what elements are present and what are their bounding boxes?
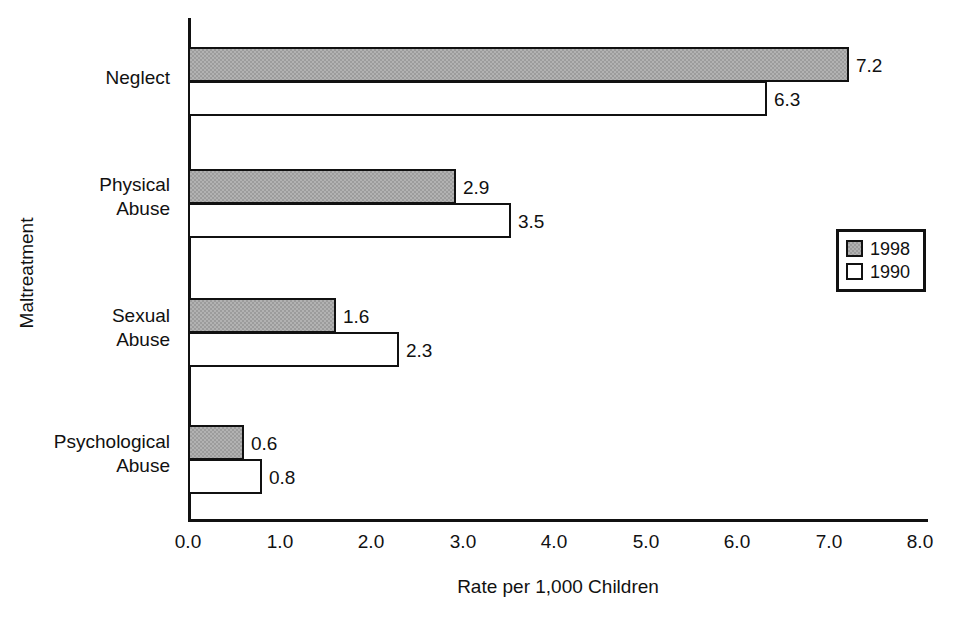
y-tick-label-psychological-abuse: Psychological Abuse (0, 430, 170, 478)
bar-neglect-1990 (188, 81, 767, 116)
chart-screenshot: Maltreatment Neglect Physical Abuse Sexu… (0, 0, 962, 628)
x-axis-title: Rate per 1,000 Children (188, 576, 928, 598)
plot-area: Maltreatment Neglect Physical Abuse Sexu… (0, 0, 962, 628)
legend-swatch-1990-icon (846, 263, 863, 280)
bar-psychological-abuse-1998 (188, 425, 244, 460)
bar-value-psychological-abuse-1990: 0.8 (269, 468, 295, 487)
legend-item-1998: 1998 (846, 237, 917, 260)
x-tick-label-1: 1.0 (245, 531, 315, 553)
x-axis-line (188, 519, 928, 522)
legend-label-1998: 1998 (870, 240, 910, 258)
legend-label-1990: 1990 (870, 263, 910, 281)
legend-swatch-1998-icon (846, 240, 863, 257)
bar-sexual-abuse-1998 (188, 298, 336, 333)
x-tick-label-2: 2.0 (336, 531, 406, 553)
bar-psychological-abuse-1990 (188, 459, 262, 494)
bar-value-physical-abuse-1990: 3.5 (518, 212, 544, 231)
bar-value-neglect-1990: 6.3 (774, 90, 800, 109)
x-tick-label-4: 4.0 (519, 531, 589, 553)
y-tick-label-neglect: Neglect (0, 66, 170, 90)
bar-value-physical-abuse-1998: 2.9 (463, 178, 489, 197)
x-tick-label-3: 3.0 (428, 531, 498, 553)
y-tick-label-physical-abuse: Physical Abuse (0, 173, 170, 221)
bar-value-neglect-1998: 7.2 (856, 56, 882, 75)
x-tick-label-5: 5.0 (611, 531, 681, 553)
x-tick-label-7: 7.0 (794, 531, 864, 553)
bar-value-sexual-abuse-1998: 1.6 (343, 307, 369, 326)
bar-value-sexual-abuse-1990: 2.3 (406, 341, 432, 360)
y-tick-label-sexual-abuse: Sexual Abuse (0, 304, 170, 352)
bar-sexual-abuse-1990 (188, 332, 399, 367)
bar-neglect-1998 (188, 47, 849, 82)
x-tick-label-8: 8.0 (885, 531, 955, 553)
bar-physical-abuse-1990 (188, 203, 511, 238)
bar-value-psychological-abuse-1998: 0.6 (251, 434, 277, 453)
bar-physical-abuse-1998 (188, 169, 456, 204)
legend: 1998 1990 (836, 229, 926, 292)
legend-item-1990: 1990 (846, 260, 917, 283)
x-tick-label-0: 0.0 (153, 531, 223, 553)
x-tick-label-6: 6.0 (702, 531, 772, 553)
